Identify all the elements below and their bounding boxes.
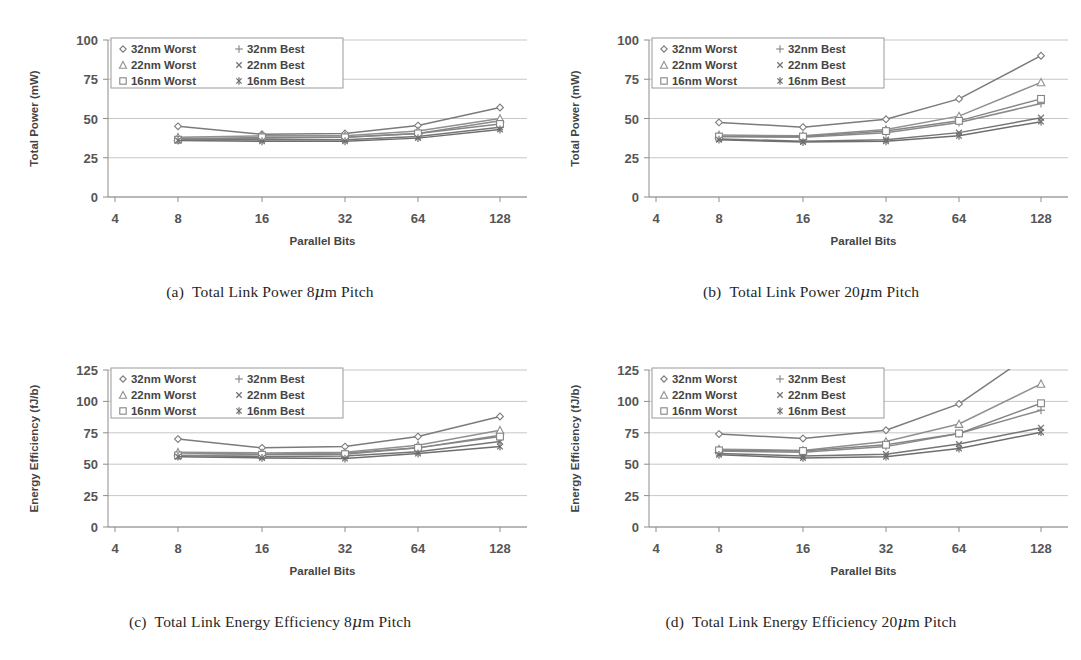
legend-label: 32nm Worst [131,43,196,55]
data-point-square-marker [1038,95,1045,102]
caption-d-tag: (d) [666,613,685,630]
x-tick-label: 32 [879,541,893,556]
chart-b-plot: 025507510048163264128Parallel BitsTotal … [541,0,1081,285]
panel-c: 025507510012548163264128Parallel BitsEne… [0,330,540,660]
x-tick-labels: 48163264128 [111,211,510,226]
chart-a-plot: 025507510048163264128Parallel BitsTotal … [0,0,540,285]
caption-a: (a) Total Link Power 8μm Pitch [0,283,540,301]
data-point-square-marker [1038,400,1045,407]
y-tick-label: 100 [617,33,639,48]
data-point-diamond-marker [415,433,422,440]
legend-label: 16nm Worst [131,405,196,417]
x-axis-title: Parallel Bits [290,565,356,577]
x-tick-label: 8 [174,541,181,556]
data-point-diamond-marker [497,413,504,420]
x-tick-label: 4 [111,211,119,226]
series-group [174,413,504,462]
y-tick-labels: 0255075100125 [76,363,98,535]
chart-legend: 32nm Worst32nm Best22nm Worst22nm Best16… [652,368,884,418]
caption-c-mu: μ [352,613,362,631]
x-tick-label: 128 [489,541,511,556]
caption-b-text-after: m Pitch [870,283,919,300]
data-point-square-marker [956,117,963,124]
data-point-diamond-marker [716,431,723,438]
legend-label: 22nm Worst [131,59,196,71]
data-point-triangle-marker [1037,79,1045,86]
x-tick-labels: 48163264128 [111,541,510,556]
legend-label: 22nm Best [788,389,846,401]
data-point-diamond-marker [716,119,723,126]
data-point-diamond-marker [956,95,963,102]
y-tick-label: 75 [84,426,98,441]
data-point-diamond-marker [175,123,182,130]
x-tick-label: 4 [652,541,660,556]
data-point-square-marker [497,433,504,440]
figure-four-panel-charts: 025507510048163264128Parallel BitsTotal … [0,0,1081,660]
x-tick-label: 128 [489,211,511,226]
x-tick-label: 16 [796,211,810,226]
panel-a: 025507510048163264128Parallel BitsTotal … [0,0,540,330]
panel-d: 025507510012548163264128Parallel BitsEne… [541,330,1081,660]
caption-d-mu: μ [897,613,907,631]
data-point-diamond-marker [800,435,807,442]
legend-label: 22nm Worst [672,389,737,401]
data-point-square-marker [883,441,890,448]
caption-c-text-before: Total Link Energy Efficiency 8 [155,613,352,630]
data-point-square-marker [120,78,126,84]
data-point-square-marker [800,448,807,455]
chart-d-svg: 025507510012548163264128Parallel BitsEne… [541,330,1081,615]
caption-d-text-before: Total Link Energy Efficiency 20 [692,613,897,630]
y-tick-label: 125 [76,363,98,378]
data-point-triangle-marker [955,420,963,427]
data-point-diamond-marker [1038,52,1045,59]
y-tick-label: 75 [625,72,639,87]
data-point-diamond-marker [497,104,504,111]
data-point-plus-marker [1037,406,1045,414]
series-group [174,104,504,145]
y-tick-label: 25 [625,489,639,504]
legend-label: 22nm Worst [131,389,196,401]
data-point-square-marker [956,430,963,437]
y-tick-label: 50 [625,112,639,127]
y-tick-label: 0 [91,520,98,535]
x-tick-label: 64 [411,541,426,556]
y-axis-title: Energy Efficiency (fJ/b) [28,384,40,512]
data-point-square-marker [661,408,667,414]
y-tick-label: 75 [625,426,639,441]
legend-label: 22nm Best [247,59,305,71]
legend-label: 22nm Best [247,389,305,401]
chart-legend: 32nm Worst32nm Best22nm Worst22nm Best16… [111,368,343,418]
data-point-triangle-marker [1037,380,1045,387]
caption-b-mu: μ [860,283,870,301]
legend-label: 16nm Worst [672,405,737,417]
x-axis-title: Parallel Bits [831,565,897,577]
data-point-square-marker [661,78,667,84]
y-tick-label: 100 [76,394,98,409]
x-tick-label: 64 [952,541,967,556]
x-tick-labels: 48163264128 [652,541,1051,556]
y-axis-title: Total Power (mW) [569,70,581,166]
y-tick-label: 0 [632,190,639,205]
legend-label: 32nm Best [247,373,305,385]
caption-d: (d) Total Link Energy Efficiency 20μm Pi… [541,613,1081,631]
caption-a-tag: (a) [166,283,184,300]
data-point-diamond-marker [800,124,807,131]
legend-label: 16nm Best [788,75,846,87]
y-tick-label: 25 [84,151,98,166]
y-tick-label: 50 [84,457,98,472]
series-line-22nm-worst [178,430,500,453]
x-tick-label: 32 [338,541,352,556]
x-axis-title: Parallel Bits [290,235,356,247]
series-line-22nm-worst [719,82,1041,135]
y-tick-label: 0 [632,520,639,535]
caption-c-text-after: m Pitch [362,613,411,630]
caption-d-text-after: m Pitch [908,613,957,630]
chart-a-svg: 025507510048163264128Parallel BitsTotal … [0,0,540,285]
y-tick-label: 25 [84,489,98,504]
data-point-square-marker [883,128,890,135]
y-tick-label: 0 [91,190,98,205]
legend-label: 32nm Best [247,43,305,55]
chart-b-svg: 025507510048163264128Parallel BitsTotal … [541,0,1081,285]
y-axis-title: Total Power (mW) [28,70,40,166]
chart-c-svg: 025507510012548163264128Parallel BitsEne… [0,330,540,615]
